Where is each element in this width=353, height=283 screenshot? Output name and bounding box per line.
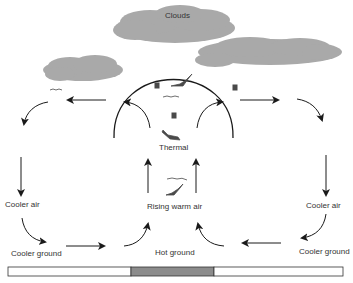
descend-curve-right (297, 99, 322, 120)
cooler-ground-right-label: Cooler ground (299, 247, 350, 256)
inner-arrow-left (125, 102, 150, 128)
cooler-air-right-label: Cooler air (306, 201, 341, 210)
cloud-right-icon (195, 37, 342, 67)
hot-curve-left (124, 224, 148, 246)
cooler-ground-left-label: Cooler ground (11, 249, 62, 258)
hot-ground-bar (131, 267, 214, 276)
cloud-left-icon (43, 55, 123, 81)
hot-ground-label: Hot ground (155, 248, 195, 257)
cooler-air-left-label: Cooler air (5, 200, 40, 209)
ground-curve-left (22, 218, 45, 242)
inner-arrow-right (197, 102, 222, 128)
thermal-dome (114, 80, 233, 139)
rising-warm-air-label: Rising warm air (147, 202, 202, 211)
cooler-ground-bar-left (8, 267, 131, 276)
thermal-diagram (0, 0, 353, 283)
descend-curve-left (24, 102, 48, 124)
clouds-label: Clouds (165, 11, 190, 20)
thermal-label: Thermal (159, 143, 188, 152)
bird-icons (50, 74, 237, 195)
ground-curve-right (302, 214, 326, 238)
hot-curve-right (198, 224, 224, 246)
cooler-ground-bar-right (214, 267, 343, 276)
